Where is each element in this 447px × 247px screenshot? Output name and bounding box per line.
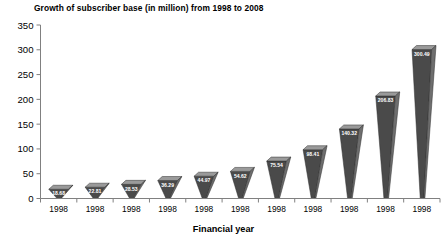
y-axis-tick-label: 350 [17, 20, 33, 31]
chart-plot-area: 050100150200250300350 18.6822.8128.5336.… [0, 0, 447, 247]
bar-value-label: 22.81 [89, 188, 102, 194]
bar-value-label: 54.62 [234, 173, 247, 179]
x-axis-tick-label: 1998 [122, 204, 141, 214]
x-axis-tick-label: 1998 [340, 204, 359, 214]
x-axis-tick-label: 1998 [86, 204, 105, 214]
x-axis-tick-label: 1998 [304, 204, 323, 214]
bar-value-label: 140.32 [341, 130, 357, 136]
bar-value-label: 28.53 [125, 186, 138, 192]
y-axis-tick-label: 0 [28, 193, 33, 204]
bars-group: 18.6822.8128.5336.2944.9754.6275.5498.41… [49, 46, 436, 199]
y-axis-tick-label: 150 [17, 119, 33, 130]
bar-value-label: 75.54 [270, 162, 283, 168]
x-axis-tick-label: 1998 [195, 204, 214, 214]
bar-value-label: 98.41 [307, 151, 320, 157]
x-axis-tick-group: 1998199819981998199819981998199819981998… [41, 199, 441, 214]
x-axis-tick-label: 1998 [267, 204, 286, 214]
chart-container: Growth of subscriber base (in million) f… [0, 0, 447, 247]
y-axis-tick-label: 300 [17, 44, 33, 55]
y-axis-tick-group: 050100150200250300350 [17, 20, 40, 205]
bar-value-label: 300.49 [414, 51, 430, 57]
y-axis-tick-label: 50 [23, 168, 34, 179]
x-axis-tick-label: 1998 [376, 204, 395, 214]
x-axis-tick-label: 1998 [231, 204, 250, 214]
x-axis-tick-label: 1998 [158, 204, 177, 214]
x-axis-tick-label: 1998 [49, 204, 68, 214]
x-axis-title: Financial year [0, 224, 447, 234]
y-axis-tick-label: 100 [17, 143, 33, 154]
y-axis-tick-label: 200 [17, 94, 33, 105]
x-axis-tick-label: 1998 [413, 204, 432, 214]
bar-value-label: 44.97 [198, 177, 211, 183]
bar-value-label: 206.83 [378, 97, 394, 103]
y-axis-tick-label: 250 [17, 69, 33, 80]
bar-value-label: 18.68 [52, 190, 65, 196]
bar-value-label: 36.29 [161, 182, 174, 188]
